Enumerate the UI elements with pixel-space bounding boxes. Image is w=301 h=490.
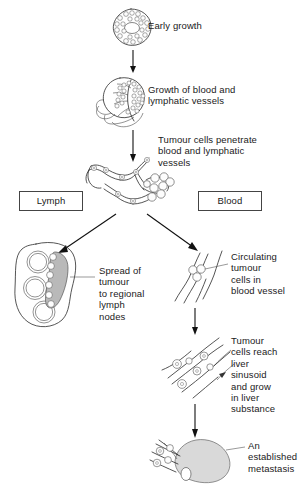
vessel-growth-figure	[96, 78, 145, 127]
liver-sinusoid-figure	[162, 338, 234, 438]
established-metastasis-figure	[150, 440, 245, 483]
metastasis-diagram: Early growth Growth of blood and lymphat…	[0, 0, 301, 490]
label-early-growth: Early growth	[148, 20, 202, 31]
label-established-metastasis: An established metastasis	[248, 440, 297, 474]
tumour-cell-cluster	[143, 173, 174, 201]
arrow-stage2-to-stage3	[130, 130, 136, 162]
label-lymph-node-spread: Spread of tumour to regional lymph nodes	[99, 265, 144, 322]
diagram-artwork	[0, 0, 301, 490]
route-label-lymph: Lymph	[19, 191, 83, 211]
early-growth-figure	[113, 9, 151, 45]
label-vessel-penetration: Tumour cells penetrate blood and lymphat…	[158, 134, 257, 168]
label-circulating-cells: Circulating tumour cells in blood vessel	[231, 251, 285, 297]
label-liver-sinusoid: Tumour cells reach liver sinusoid and gr…	[231, 335, 278, 415]
arrow-stage1-to-stage2	[130, 50, 136, 73]
circulating-cells-figure	[175, 251, 228, 335]
route-label-blood: Blood	[198, 191, 262, 211]
label-vessel-growth: Growth of blood and lymphatic vessels	[148, 84, 235, 107]
lymph-node-figure	[15, 242, 95, 326]
arrow-branch-right	[147, 214, 198, 251]
